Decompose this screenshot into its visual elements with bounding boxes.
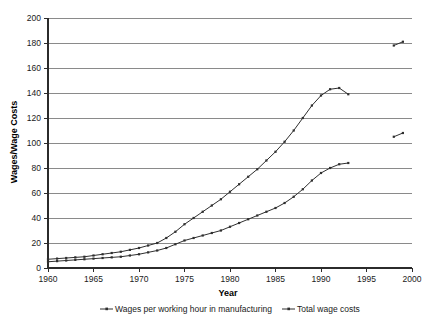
data-point-marker: [147, 244, 149, 246]
x-tick-label: 1965: [84, 274, 103, 284]
data-point-marker: [229, 191, 231, 193]
data-point-marker: [147, 251, 149, 253]
axis-ticks: [44, 18, 412, 272]
data-point-marker: [402, 132, 404, 134]
data-point-marker: [47, 258, 49, 260]
data-point-marker: [293, 129, 295, 131]
data-point-marker: [120, 256, 122, 258]
data-point-marker: [102, 257, 104, 259]
gridlines: [48, 18, 412, 243]
legend-item-label: Wages per working hour in manufacturing: [115, 304, 272, 314]
y-axis-title: Wages/Wage Costs: [9, 101, 19, 183]
chart-legend: Wages per working hour in manufacturingT…: [100, 304, 360, 314]
y-tick-label: 200: [27, 13, 41, 23]
data-point-marker: [174, 243, 176, 245]
data-point-marker: [65, 259, 67, 261]
series-line-path: [394, 133, 403, 137]
data-point-marker: [302, 117, 304, 119]
data-point-marker: [256, 214, 258, 216]
x-tick-label: 1995: [357, 274, 376, 284]
data-point-marker: [293, 196, 295, 198]
data-point-marker: [138, 247, 140, 249]
legend-item-label: Total wage costs: [297, 304, 360, 314]
data-point-marker: [193, 217, 195, 219]
data-point-marker: [47, 261, 49, 263]
data-point-marker: [211, 232, 213, 234]
y-tick-label: 100: [27, 138, 41, 148]
data-point-marker: [238, 183, 240, 185]
data-point-marker: [193, 237, 195, 239]
data-point-marker: [92, 258, 94, 260]
data-point-marker: [402, 41, 404, 43]
data-point-marker: [265, 211, 267, 213]
data-point-marker: [274, 207, 276, 209]
data-point-marker: [329, 88, 331, 90]
data-point-marker: [302, 188, 304, 190]
y-tick-label: 160: [27, 63, 41, 73]
data-point-marker: [247, 218, 249, 220]
data-point-marker: [229, 226, 231, 228]
data-point-marker: [211, 204, 213, 206]
x-tick-label: 1960: [39, 274, 58, 284]
data-point-marker: [320, 94, 322, 96]
y-tick-label: 20: [32, 238, 42, 248]
data-point-marker: [183, 239, 185, 241]
data-point-marker: [393, 136, 395, 138]
series-1: [47, 41, 404, 261]
data-point-marker: [156, 242, 158, 244]
x-tick-label: 1980: [221, 274, 240, 284]
data-series: [47, 41, 404, 263]
data-point-marker: [347, 162, 349, 164]
data-point-marker: [138, 253, 140, 255]
x-axis-title: Year: [218, 288, 238, 298]
legend-marker-icon: [287, 308, 290, 311]
data-point-marker: [220, 229, 222, 231]
data-point-marker: [265, 159, 267, 161]
data-point-marker: [238, 222, 240, 224]
data-point-marker: [202, 234, 204, 236]
data-point-marker: [274, 151, 276, 153]
data-point-marker: [111, 252, 113, 254]
data-point-marker: [202, 211, 204, 213]
data-point-marker: [320, 172, 322, 174]
data-point-marker: [183, 223, 185, 225]
y-tick-label: 40: [32, 213, 42, 223]
data-point-marker: [56, 260, 58, 262]
series-line-path: [48, 88, 348, 259]
data-point-marker: [284, 202, 286, 204]
y-axis-tick-labels: 020406080100120140160180200: [27, 13, 41, 273]
data-point-marker: [74, 256, 76, 258]
x-tick-label: 2000: [403, 274, 422, 284]
data-point-marker: [220, 198, 222, 200]
data-point-marker: [165, 247, 167, 249]
data-point-marker: [247, 176, 249, 178]
x-axis-tick-labels: 196019651970197519801985199019952000: [39, 274, 422, 284]
line-chart: 020406080100120140160180200 196019651970…: [0, 0, 428, 325]
y-tick-label: 140: [27, 88, 41, 98]
data-point-marker: [256, 168, 258, 170]
y-tick-label: 180: [27, 38, 41, 48]
data-point-marker: [129, 249, 131, 251]
data-point-marker: [74, 259, 76, 261]
data-point-marker: [156, 249, 158, 251]
legend-item-0[interactable]: Wages per working hour in manufacturing: [100, 304, 272, 314]
data-point-marker: [83, 256, 85, 258]
data-point-marker: [338, 87, 340, 89]
x-tick-label: 1985: [266, 274, 285, 284]
data-point-marker: [329, 167, 331, 169]
data-point-marker: [120, 251, 122, 253]
data-point-marker: [311, 179, 313, 181]
legend-marker-icon: [105, 308, 108, 311]
data-point-marker: [111, 256, 113, 258]
y-tick-label: 0: [36, 263, 41, 273]
data-point-marker: [393, 44, 395, 46]
y-tick-label: 120: [27, 113, 41, 123]
data-point-marker: [311, 104, 313, 106]
legend-item-1[interactable]: Total wage costs: [282, 304, 360, 314]
x-tick-label: 1990: [312, 274, 331, 284]
data-point-marker: [83, 258, 85, 260]
data-point-marker: [65, 257, 67, 259]
data-point-marker: [92, 254, 94, 256]
data-point-marker: [347, 93, 349, 95]
data-point-marker: [129, 254, 131, 256]
